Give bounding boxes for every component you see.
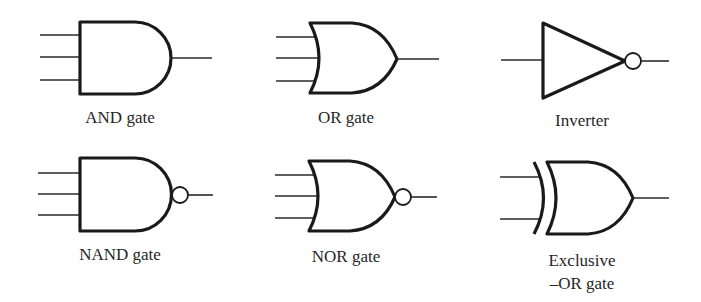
nand-gate-symbol: NAND gate: [38, 158, 213, 264]
inverter-symbol: Inverter: [501, 23, 669, 130]
nand-body: [80, 158, 172, 231]
and-gate-label: AND gate: [85, 108, 154, 127]
xor-body: [547, 162, 633, 234]
logic-gates-diagram: AND gate OR gate Inverter NAND gate NOR: [0, 0, 701, 302]
inverter-label: Inverter: [555, 111, 609, 130]
xor-gate-symbol: Exclusive –OR gate: [500, 162, 669, 293]
or-gate-symbol: OR gate: [276, 23, 439, 127]
and-gate-symbol: AND gate: [40, 22, 212, 127]
or-body: [310, 23, 397, 93]
xor-gate-label-line-2: –OR gate: [549, 274, 615, 293]
nor-gate-symbol: NOR gate: [275, 161, 437, 266]
nor-body: [309, 161, 395, 231]
inverter-bubble: [625, 53, 641, 69]
or-gate-label: OR gate: [318, 108, 374, 127]
and-body: [80, 22, 171, 94]
xor-input-arc: [534, 162, 544, 234]
xor-gate-label-line-1: Exclusive: [548, 251, 615, 270]
nand-gate-label: NAND gate: [79, 245, 161, 264]
nor-bubble: [395, 189, 411, 205]
inverter-triangle: [543, 23, 625, 98]
nor-gate-label: NOR gate: [312, 247, 380, 266]
nand-bubble: [172, 187, 188, 203]
